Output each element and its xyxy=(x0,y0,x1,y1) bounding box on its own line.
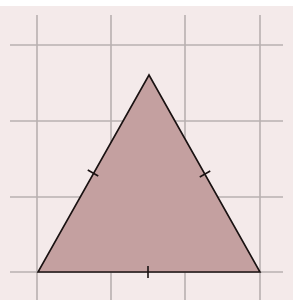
diagram-canvas xyxy=(0,0,293,300)
equilateral-triangle xyxy=(38,75,260,272)
triangle-diagram xyxy=(0,0,293,300)
